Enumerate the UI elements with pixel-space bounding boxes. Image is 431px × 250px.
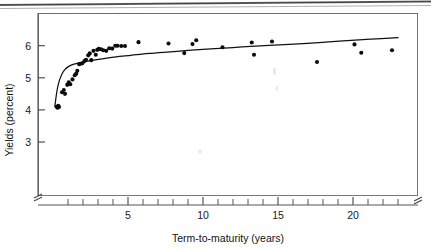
data-point-10 [70,77,74,81]
tick-label-group: 34565101520 [25,40,359,222]
data-point-33 [119,44,123,48]
data-point-47 [390,48,394,52]
data-point-37 [182,51,186,55]
data-point-44 [315,60,319,64]
x-tick-label-15: 15 [272,209,284,221]
x-tick-group [68,197,398,205]
y-tick-label-4: 4 [25,104,31,116]
y-tick-label-3: 3 [25,136,31,148]
data-point-36 [166,41,170,45]
data-point-5 [62,88,66,92]
x-axis-title: Term-to-maturity (years) [172,232,284,244]
data-point-32 [115,44,119,48]
figure-container: 34565101520 Term-to-maturity (years) Yie… [0,0,431,250]
data-point-35 [136,40,140,44]
data-point-34 [123,44,127,48]
y-axis-title: Yields (percent) [3,83,15,156]
x-axis-break-mark [414,197,422,204]
data-point-30 [110,47,114,51]
y-tick-label-5: 5 [25,72,31,84]
y-tick-label-6: 6 [25,40,31,52]
data-point-41 [250,40,254,44]
data-point-43 [270,39,274,43]
chart-svg: 34565101520 Term-to-maturity (years) Yie… [0,0,431,250]
data-point-40 [220,45,224,49]
x-tick-label-20: 20 [347,209,359,221]
data-point-9 [68,82,72,86]
y-tick-group [38,46,45,142]
data-point-20 [88,51,92,55]
data-point-22 [91,49,95,53]
data-point-3 [57,105,61,109]
data-point-21 [89,58,93,62]
axis-break-group [34,194,422,204]
data-point-13 [75,69,79,73]
data-point-group [55,38,394,110]
data-point-6 [63,92,67,96]
x-tick-label-5: 5 [125,209,131,221]
data-point-46 [359,51,363,55]
data-point-23 [94,53,98,57]
data-point-42 [252,53,256,57]
fitted-curve [55,38,398,107]
x-tick-label-10: 10 [197,209,209,221]
data-point-45 [352,42,356,46]
data-point-18 [84,58,88,62]
data-point-39 [194,38,198,42]
data-point-38 [190,42,194,46]
